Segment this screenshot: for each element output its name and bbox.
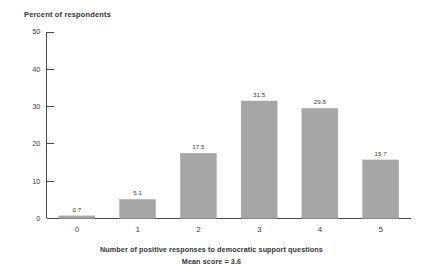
x-tick-label-5: 5 (378, 225, 383, 234)
y-tick-label: 30 (32, 102, 40, 111)
bar-chart-plot: 01020304050 0.75.117.531.529.515.7 01234… (0, 0, 423, 277)
bar-4 (302, 108, 338, 218)
bar-value-label-0: 0.7 (73, 206, 82, 213)
bar-value-label-4: 29.5 (314, 98, 327, 105)
x-tick-label-2: 2 (196, 225, 201, 234)
chart-container: Percent of respondents 01020304050 0.75.… (0, 0, 423, 277)
y-tick-label: 0 (36, 214, 40, 223)
x-tick-label-3: 3 (257, 225, 262, 234)
y-tick-label: 10 (32, 177, 40, 186)
x-axis-caption: Number of positive responses to democrat… (0, 245, 423, 254)
y-tick-label: 20 (32, 139, 40, 148)
bar-5 (363, 160, 399, 219)
bar-1 (120, 199, 156, 218)
x-tick-label-1: 1 (135, 225, 140, 234)
bar-3 (241, 101, 277, 218)
bar-value-label-3: 31.5 (253, 91, 266, 98)
x-tick-label-4: 4 (318, 225, 323, 234)
y-tick-group: 01020304050 (32, 27, 53, 223)
mean-score-caption: Mean score = 3.6 (0, 257, 423, 266)
y-tick-label: 50 (32, 27, 40, 36)
y-tick-label: 40 (32, 65, 40, 74)
x-tick-group: 012345 (75, 225, 384, 234)
bar-0 (59, 216, 95, 219)
bar-value-label-5: 15.7 (375, 150, 388, 157)
x-tick-label-0: 0 (75, 225, 80, 234)
bar-2 (180, 153, 216, 218)
bar-value-label-1: 5.1 (133, 189, 142, 196)
bars-group: 0.75.117.531.529.515.7 (59, 91, 399, 218)
bar-value-label-2: 17.5 (192, 143, 205, 150)
